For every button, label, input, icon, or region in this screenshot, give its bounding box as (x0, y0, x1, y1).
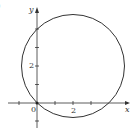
circle-graph-figure: ) y x 0 2 2 (0, 0, 132, 135)
y-axis-arrow-icon (35, 7, 39, 13)
y-axis-label: y (29, 6, 34, 14)
x-axis (8, 101, 130, 105)
y-tick-label-2: 2 (29, 62, 34, 70)
origin-label: 0 (31, 106, 36, 114)
x-axis-label: x (125, 106, 130, 114)
graph-canvas (0, 0, 132, 135)
x-tick-label-2: 2 (71, 107, 76, 115)
